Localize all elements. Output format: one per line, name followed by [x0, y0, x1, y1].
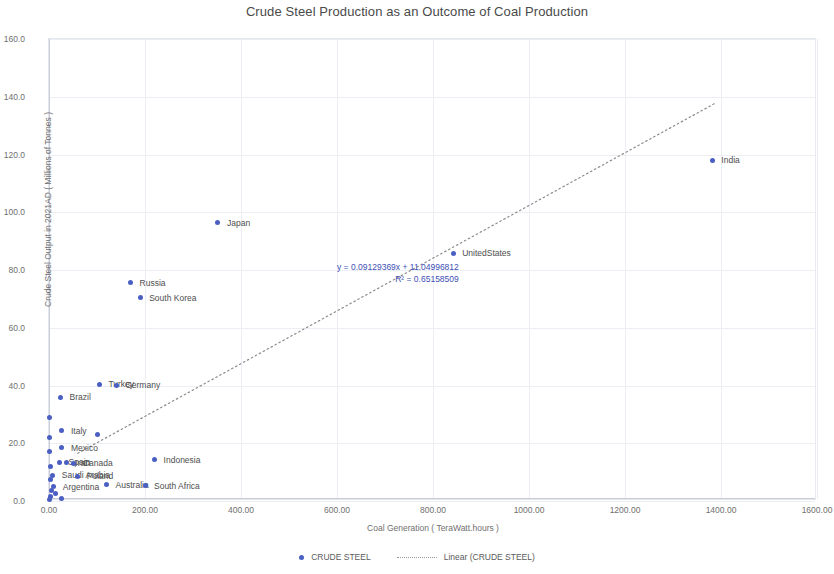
x-axis-tick-label: 800.00 — [420, 505, 446, 515]
data-point-label: South Africa — [154, 481, 200, 491]
data-point-label: UnitedStates — [462, 248, 511, 258]
y-axis-title: Crude Steel Output in 2021AD ( Millions … — [43, 112, 53, 307]
data-point-label: Indonesia — [164, 455, 201, 465]
y-axis-tick-label: 120.0 — [0, 150, 25, 160]
scatter-marker-icon — [299, 555, 304, 560]
data-point[interactable] — [57, 460, 62, 465]
y-axis-tick-label: 80.0 — [0, 265, 25, 275]
data-point-label: Japan — [227, 218, 250, 228]
gridline-horizontal — [49, 501, 815, 502]
x-axis-tick-label: 600.00 — [324, 505, 350, 515]
scatter-chart: Crude Steel Production as an Outcome of … — [0, 0, 834, 574]
data-point-label: Germany — [125, 380, 160, 390]
x-axis-tick-label: 1600.00 — [802, 505, 833, 515]
data-point[interactable] — [451, 251, 456, 256]
x-axis-tick-label: 1000.00 — [514, 505, 545, 515]
gridline-vertical — [817, 39, 818, 499]
y-axis-tick-label: 140.0 — [0, 92, 25, 102]
x-axis-tick-label: 200.00 — [132, 505, 158, 515]
legend-label-linear-trend: Linear (CRUDE STEEL) — [444, 552, 535, 562]
data-point[interactable] — [97, 382, 102, 387]
data-point-label: Brazil — [70, 392, 91, 402]
data-point[interactable] — [138, 295, 143, 300]
y-axis-tick-label: 100.0 — [0, 207, 25, 217]
x-axis-tick-label: 1200.00 — [610, 505, 641, 515]
dotted-line-icon — [397, 557, 437, 558]
data-point-label: South Korea — [149, 293, 196, 303]
data-point[interactable] — [59, 496, 64, 501]
x-axis-tick-label: 0.00 — [41, 505, 58, 515]
chart-legend: CRUDE STEEL Linear (CRUDE STEEL) — [0, 552, 834, 562]
data-point-label: India — [721, 155, 739, 165]
data-point-label: Italy — [71, 426, 87, 436]
r-squared-line: R² = 0.65158509 — [337, 273, 459, 285]
equation-line: y = 0.09129369x + 11.04996812 — [337, 261, 459, 273]
data-point-label: Mexico — [71, 443, 98, 453]
plot-area: IndiaJapanUnitedStatesRussiaSouth KoreaT… — [48, 38, 816, 500]
y-axis-tick-label: 0.0 — [0, 496, 25, 506]
y-axis-tick-label: 160.0 — [0, 34, 25, 44]
y-axis-tick-label: 40.0 — [0, 381, 25, 391]
data-point[interactable] — [58, 395, 63, 400]
data-point[interactable] — [710, 158, 715, 163]
trendline-equation: y = 0.09129369x + 11.04996812 R² = 0.651… — [337, 261, 459, 286]
data-point-label: Canada — [83, 458, 113, 468]
data-point[interactable] — [114, 383, 119, 388]
data-point[interactable] — [95, 432, 100, 437]
data-point-label: Argentina — [63, 482, 99, 492]
legend-item-crude-steel[interactable]: CRUDE STEEL — [299, 552, 371, 562]
x-axis-tick-label: 1400.00 — [706, 505, 737, 515]
x-axis-tick-label: 400.00 — [228, 505, 254, 515]
legend-item-linear-trend[interactable]: Linear (CRUDE STEEL) — [397, 552, 535, 562]
data-point-label: Russia — [140, 278, 166, 288]
y-axis-tick-label: 20.0 — [0, 438, 25, 448]
data-point-label: Poland — [87, 471, 113, 481]
x-axis-title: Coal Generation ( TeraWatt.hours ) — [49, 523, 817, 533]
legend-label-crude-steel: CRUDE STEEL — [311, 552, 371, 562]
y-axis-tick-label: 60.0 — [0, 323, 25, 333]
chart-title: Crude Steel Production as an Outcome of … — [0, 4, 834, 19]
